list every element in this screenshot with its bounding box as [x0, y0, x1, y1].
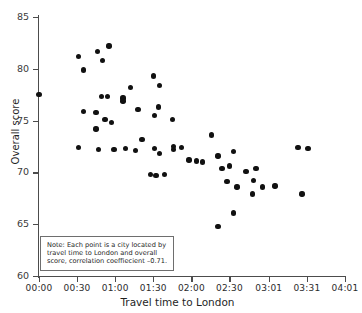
x-tick-02-00: [191, 277, 192, 282]
x-tick-04-01: [345, 277, 346, 282]
data-point: [179, 145, 184, 150]
y-tick-label-85: 85: [3, 12, 29, 22]
data-point: [139, 137, 144, 142]
data-point: [295, 145, 300, 150]
x-tick-00-30: [77, 277, 78, 282]
data-point: [194, 158, 199, 163]
x-tick-03-31: [307, 277, 308, 282]
y-tick-label-60: 60: [3, 271, 29, 281]
data-point: [93, 110, 98, 115]
x-tick-02-30: [229, 277, 230, 282]
note-box: Note: Each point is a city located by tr…: [40, 236, 174, 271]
data-point: [215, 153, 220, 158]
note-text: Note: Each point is a city located by tr…: [47, 241, 168, 266]
data-point: [156, 104, 161, 109]
data-point: [102, 117, 107, 122]
data-point: [215, 224, 220, 229]
data-point: [106, 43, 111, 48]
data-point: [120, 95, 125, 100]
y-tick-label-80: 80: [3, 64, 29, 74]
y-axis-title: Overall score: [10, 84, 21, 180]
data-point: [153, 173, 158, 178]
data-point: [243, 169, 248, 174]
data-point: [186, 157, 191, 162]
data-point: [253, 166, 258, 171]
data-point: [95, 49, 100, 54]
x-tick-01-30: [153, 277, 154, 282]
x-tick-01-00: [115, 277, 116, 282]
data-point: [135, 107, 140, 112]
x-tick-label-02-30: 02:30: [207, 283, 251, 293]
data-point: [76, 54, 81, 59]
x-tick-03-01: [269, 277, 270, 282]
data-point: [272, 183, 277, 188]
x-axis-title: Travel time to London: [0, 296, 355, 308]
x-tick-00-00: [39, 277, 40, 282]
data-point: [250, 191, 255, 196]
y-tick-label-65: 65: [3, 219, 29, 229]
data-point: [81, 109, 86, 114]
data-point: [93, 126, 98, 131]
data-point: [231, 210, 236, 215]
data-point: [227, 163, 232, 168]
data-point: [224, 179, 229, 184]
data-point: [111, 147, 116, 152]
data-point: [260, 184, 265, 189]
data-point: [299, 191, 304, 196]
data-point: [151, 73, 156, 78]
x-tick-label-04-01: 04:01: [323, 283, 362, 293]
data-point: [234, 184, 239, 189]
clipped-chart-title: [0, 0, 355, 3]
data-point: [219, 166, 224, 171]
data-point: [81, 67, 86, 72]
